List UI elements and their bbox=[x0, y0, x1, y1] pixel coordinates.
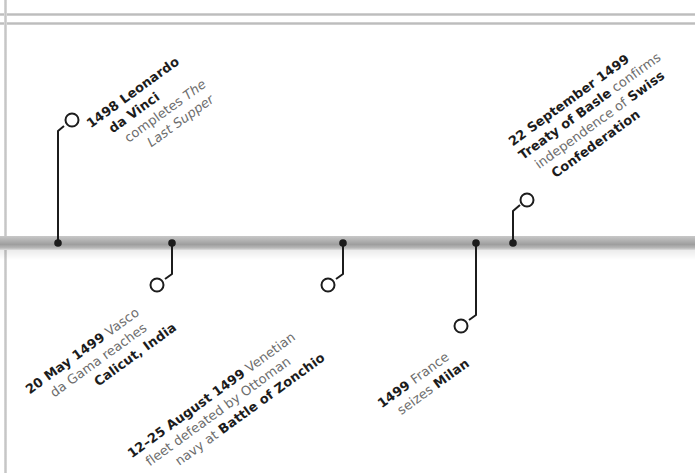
connector-treaty-of-basle bbox=[509, 194, 533, 247]
end-circle-icon bbox=[521, 194, 534, 207]
anchor-dot-icon bbox=[168, 239, 176, 247]
end-circle-icon bbox=[66, 114, 79, 127]
connector-leonardo bbox=[54, 114, 78, 247]
anchor-dot-icon bbox=[339, 239, 347, 247]
end-circle-icon bbox=[455, 320, 468, 333]
connector-france-milan bbox=[455, 239, 480, 332]
anchor-dot-icon bbox=[509, 239, 517, 247]
end-circle-icon bbox=[151, 279, 164, 292]
timeline-connectors bbox=[0, 0, 695, 473]
end-circle-icon bbox=[322, 279, 335, 292]
connector-battle-of-zonchio bbox=[322, 239, 347, 291]
connector-vasco-da-gama bbox=[151, 239, 176, 291]
anchor-dot-icon bbox=[54, 239, 62, 247]
anchor-dot-icon bbox=[472, 239, 480, 247]
